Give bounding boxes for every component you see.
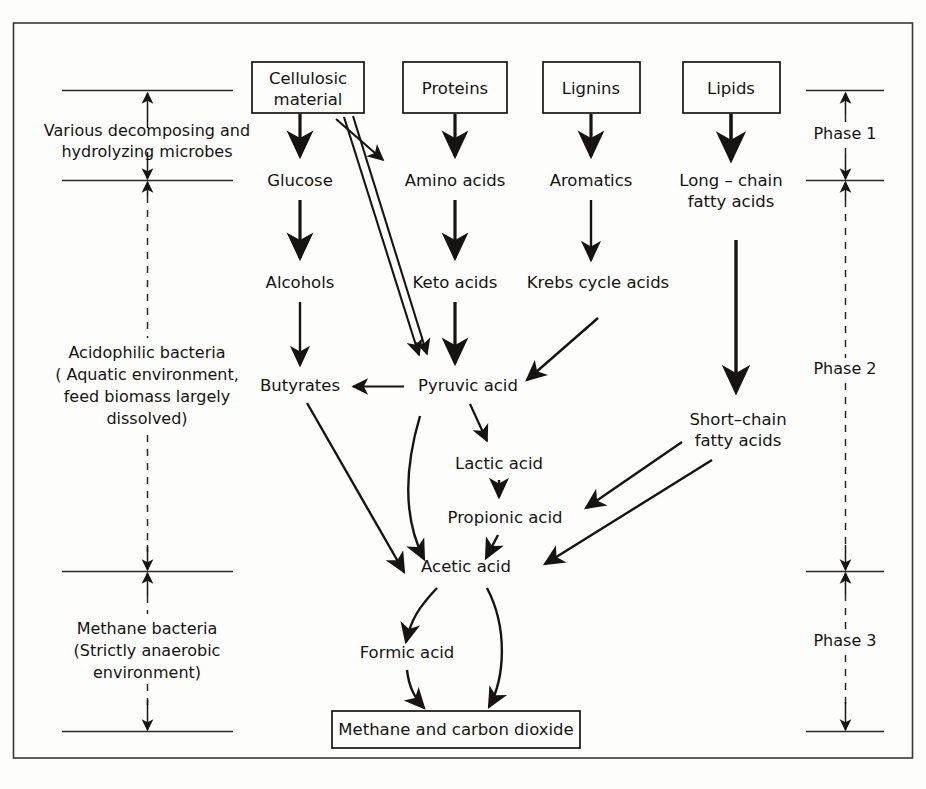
substrate-box-lignins[interactable]: Lignins	[543, 62, 640, 113]
edge-pyruvic-to-lactic	[470, 404, 487, 441]
substrate-box-proteins[interactable]: Proteins	[403, 62, 507, 113]
edge-short-chain-to-acetic	[545, 460, 712, 564]
annotation-methane-bacteria-line3: environment)	[93, 663, 201, 682]
annotation-acidophilic-bacteria-line2: ( Aquatic environment,	[55, 365, 239, 384]
edge-acetic-to-formic	[406, 588, 437, 642]
edge-formic-to-methane	[407, 670, 424, 708]
edge-cellulosic-to-pyruvic-acid	[344, 117, 419, 355]
node-aromatics: Aromatics	[550, 171, 633, 190]
pathway-diagram: Various decomposing and hydrolyzing micr…	[0, 0, 926, 789]
edge-pyruvic-curve-to-acetic	[408, 416, 424, 559]
node-butyrates: Butyrates	[260, 376, 340, 395]
node-lactic-acid: Lactic acid	[455, 454, 543, 473]
cellulosic-label-line1: Cellulosic	[269, 69, 347, 88]
node-propionic-acid: Propionic acid	[448, 508, 563, 527]
node-alcohols: Alcohols	[266, 273, 335, 292]
phase-2-label: Phase 2	[813, 359, 876, 378]
edge-short-chain-to-propionic	[586, 442, 682, 508]
annotation-acidophilic-bacteria-line4: dissolved)	[106, 409, 187, 428]
node-short-chain-fatty-acids-line2: fatty acids	[695, 431, 782, 450]
substrate-box-cellulosic[interactable]: Cellulosic material	[252, 62, 364, 113]
edge-acetic-to-methane	[487, 588, 502, 707]
phase-1-label: Phase 1	[813, 124, 876, 143]
node-short-chain-fatty-acids-line1: Short–chain	[689, 410, 786, 429]
left-phase-scale: Various decomposing and hydrolyzing micr…	[44, 91, 250, 732]
node-amino-acids: Amino acids	[405, 171, 506, 190]
phase-3-label: Phase 3	[813, 631, 876, 650]
annotation-methane-bacteria-line2: (Strictly anaerobic	[74, 641, 221, 660]
lignins-label: Lignins	[562, 79, 620, 98]
annotation-decomposing-microbes-line2: hydrolyzing microbes	[61, 142, 232, 161]
product-box-methane-co2[interactable]: Methane and carbon dioxide	[332, 711, 580, 748]
annotation-methane-bacteria-line1: Methane bacteria	[77, 619, 218, 638]
substrate-box-lipids[interactable]: Lipids	[683, 62, 780, 113]
node-pyruvic-acid: Pyruvic acid	[418, 376, 518, 395]
node-glucose: Glucose	[267, 171, 333, 190]
annotation-acidophilic-bacteria-line1: Acidophilic bacteria	[68, 343, 225, 362]
edge-krebs-to-pyruvic-acid	[527, 318, 598, 380]
edge-propionic-to-acetic	[486, 535, 498, 558]
annotation-decomposing-microbes-line1: Various decomposing and	[44, 121, 250, 140]
right-phase-scale: Phase 1 Phase 2 Phase 3	[806, 91, 884, 732]
node-formic-acid: Formic acid	[360, 643, 455, 662]
cellulosic-label-line2: material	[274, 90, 343, 109]
proteins-label: Proteins	[422, 79, 488, 98]
node-krebs-cycle-acids: Krebs cycle acids	[527, 273, 669, 292]
edge-cellulosic-to-pyruvic-acid-second	[353, 116, 427, 354]
methane-co2-label: Methane and carbon dioxide	[338, 720, 573, 739]
annotation-acidophilic-bacteria-line3: feed biomass largely	[64, 387, 231, 406]
node-long-chain-fatty-acids-line2: fatty acids	[688, 192, 775, 211]
edge-butyrates-to-acetic	[307, 403, 404, 572]
node-long-chain-fatty-acids-line1: Long – chain	[679, 171, 782, 190]
lipids-label: Lipids	[707, 79, 755, 98]
node-acetic-acid: Acetic acid	[421, 557, 511, 576]
node-keto-acids: Keto acids	[413, 273, 498, 292]
